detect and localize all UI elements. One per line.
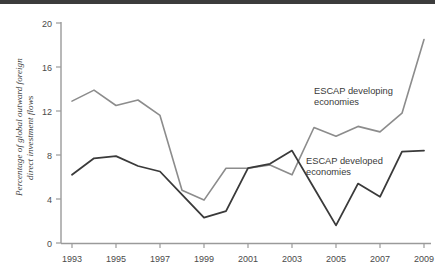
annotation-developing-line1: ESCAP developing <box>314 86 393 96</box>
y-tick-marks <box>56 23 61 243</box>
x-tick-label: 2005 <box>326 254 346 264</box>
series-line-escap-developing <box>72 40 424 201</box>
chart-figure: Percentage of global outward foreign dir… <box>0 0 437 277</box>
x-tick-label: 2009 <box>414 254 434 264</box>
y-tick-label: 20 <box>42 19 52 29</box>
y-tick-label: 0 <box>47 239 52 249</box>
x-tick-labels: 1993 1995 1997 1999 2001 2003 2005 2007 … <box>62 254 434 264</box>
annotation-developing: ESCAP developing economies <box>314 86 393 107</box>
x-tick-label: 1997 <box>150 254 170 264</box>
y-tick-labels: 0 4 8 12 16 20 <box>42 19 52 249</box>
annotation-developed-line2: economies <box>306 167 351 177</box>
line-chart: Percentage of global outward foreign dir… <box>0 0 437 277</box>
annotation-developed-line1: ESCAP developed <box>306 156 383 166</box>
x-tick-label: 1995 <box>106 254 126 264</box>
annotation-developing-line2: economies <box>314 97 359 107</box>
x-tick-label: 2007 <box>370 254 390 264</box>
x-tick-label: 1999 <box>194 254 214 264</box>
annotation-developed: ESCAP developed economies <box>306 156 383 177</box>
y-axis-title-line2: direct investment flows <box>25 95 35 180</box>
y-tick-label: 12 <box>42 107 52 117</box>
y-axis-title-line1: Percentage of global outward foreign <box>14 58 24 197</box>
y-tick-label: 8 <box>47 151 52 161</box>
x-tick-label: 2001 <box>238 254 258 264</box>
y-tick-label: 16 <box>42 63 52 73</box>
x-tick-label: 2003 <box>282 254 302 264</box>
y-tick-label: 4 <box>47 195 52 205</box>
y-axis-title: Percentage of global outward foreign dir… <box>14 58 35 197</box>
x-tick-label: 1993 <box>62 254 82 264</box>
